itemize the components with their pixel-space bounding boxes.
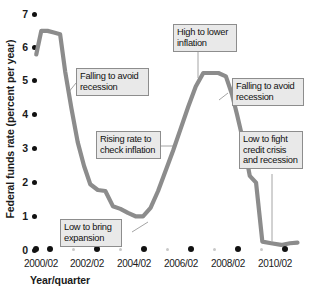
annotation-line: recession bbox=[236, 92, 300, 103]
annotation-line: and recession bbox=[243, 155, 299, 166]
annotation-low-to-bring-expansion: Low to bring expansion bbox=[60, 219, 122, 247]
x-tick-label-2008-02: 2008/02 bbox=[211, 258, 245, 269]
annotation-line: Low to fight bbox=[243, 134, 299, 145]
x-tick-dot-2006-02 bbox=[188, 246, 194, 252]
annotation-low-to-fight-credit-crisis: Low to fight credit crisis and recession bbox=[239, 131, 303, 169]
leader-line-falling-right bbox=[219, 93, 228, 100]
annotation-line: Rising rate to bbox=[100, 134, 157, 145]
x-tick-dot-minor-2005 bbox=[166, 248, 169, 251]
x-tick-dot-2000-04 bbox=[47, 246, 53, 252]
x-tick-dot-2008-02 bbox=[235, 246, 241, 252]
x-tick-dot-2004-02 bbox=[141, 246, 147, 252]
annotation-line: recession bbox=[80, 82, 145, 93]
annotation-falling-to-avoid-recession-left: Falling to avoid recession bbox=[76, 68, 149, 96]
annotation-line: Falling to avoid bbox=[236, 81, 300, 92]
leader-line-low-expansion bbox=[132, 222, 148, 232]
x-tick-dot-2010-02 bbox=[282, 246, 288, 252]
x-tick-dot-minor-2003 bbox=[119, 248, 122, 251]
annotation-line: credit crisis bbox=[243, 145, 299, 156]
x-tick-label-2010-02: 2010/02 bbox=[258, 258, 292, 269]
x-tick-dot-2002-02 bbox=[94, 246, 100, 252]
x-tick-dot-minor-2007 bbox=[213, 248, 216, 251]
annotation-falling-to-avoid-recession-right: Falling to avoid recession bbox=[232, 78, 304, 106]
annotation-line: expansion bbox=[64, 233, 118, 244]
x-tick-label-2004-02: 2004/02 bbox=[117, 258, 151, 269]
x-tick-label-2006-02: 2006/02 bbox=[164, 258, 198, 269]
annotation-line: Falling to avoid bbox=[80, 71, 145, 82]
x-tick-label-2000-02: 2000/02 bbox=[24, 258, 58, 269]
annotation-line: inflation bbox=[177, 38, 233, 49]
annotation-line: Low to bring bbox=[64, 222, 118, 233]
x-tick-dot-minor-2001 bbox=[72, 248, 75, 251]
annotation-line: check inflation bbox=[100, 145, 157, 156]
annotation-high-to-lower-inflation: High to lower inflation bbox=[173, 24, 237, 52]
x-tick-dot-minor-2009 bbox=[260, 248, 263, 251]
annotation-line: High to lower bbox=[177, 27, 233, 38]
x-tick-dot-2000-02 bbox=[33, 246, 39, 252]
x-tick-label-2002-02: 2002/02 bbox=[70, 258, 104, 269]
x-axis-title: Year/quarter bbox=[30, 274, 90, 286]
federal-funds-rate-chart: Federal funds rate (percent per year) 7 … bbox=[0, 0, 318, 294]
annotation-rising-rate-to-check-inflation: Rising rate to check inflation bbox=[96, 131, 161, 159]
